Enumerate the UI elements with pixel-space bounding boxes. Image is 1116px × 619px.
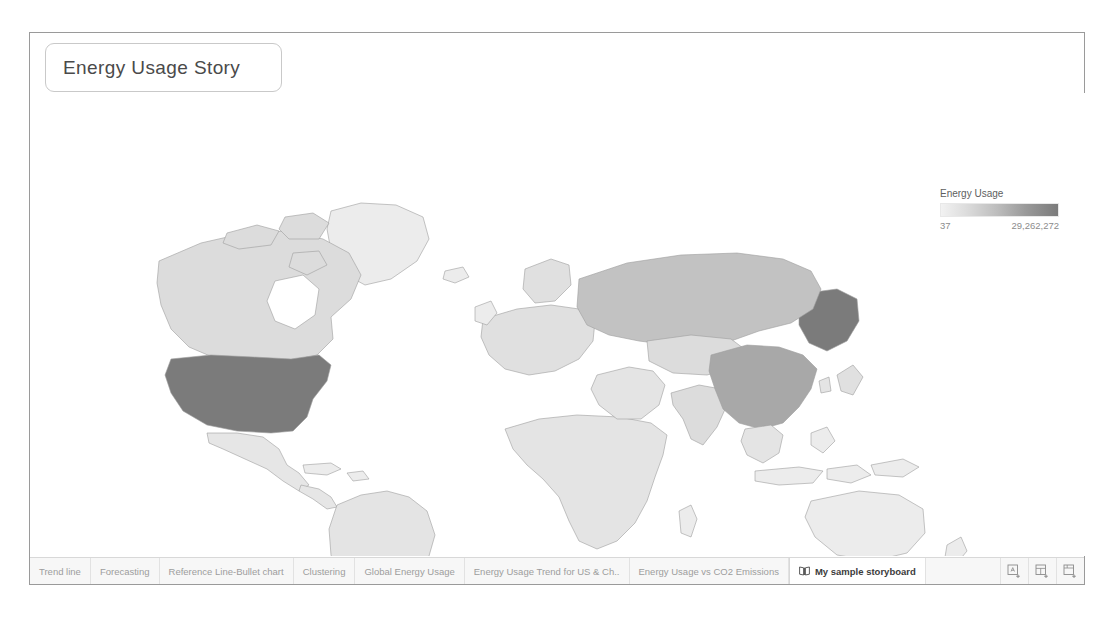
country-europe	[481, 305, 595, 375]
world-choropleth-map	[31, 93, 1085, 556]
application-window: Energy Usage Story Energy usage across t…	[29, 32, 1085, 585]
map-view[interactable]: © OpenStreetMap contributors	[31, 93, 1085, 556]
new-dashboard-button[interactable]	[1028, 558, 1056, 584]
new-worksheet-button[interactable]	[1000, 558, 1028, 584]
country-south-america	[329, 491, 435, 556]
country-united-states	[165, 355, 331, 433]
country-australia	[805, 491, 925, 556]
island-madagascar	[679, 505, 697, 537]
sheet-tab-forecasting-label: Forecasting	[100, 566, 150, 577]
legend-min-value: 37	[940, 220, 951, 231]
sheet-tab-bar: Trend line Forecasting Reference Line-Bu…	[30, 557, 1084, 584]
island-indonesia-1	[755, 467, 823, 485]
story-book-icon	[799, 566, 810, 576]
island-hispaniola	[347, 471, 369, 481]
story-title-card[interactable]: Energy Usage Story	[45, 43, 282, 92]
country-canada-islands-2	[279, 213, 329, 239]
sheet-tab-my-sample-storyboard[interactable]: My sample storyboard	[789, 558, 926, 584]
island-iceland	[443, 267, 469, 283]
country-japan	[837, 365, 863, 395]
sheet-tab-reference-line-label: Reference Line-Bullet chart	[169, 566, 284, 577]
new-story-icon	[1063, 564, 1078, 579]
country-korea	[819, 377, 831, 393]
island-cuba	[303, 463, 341, 475]
country-middle-east	[591, 367, 665, 419]
sheet-tab-global-energy-usage-label: Global Energy Usage	[364, 566, 454, 577]
sheet-tab-energy-usage-trend-label: Energy Usage Trend for US & Ch..	[474, 566, 620, 577]
sheet-tab-energy-usage-vs-co2-label: Energy Usage vs CO2 Emissions	[639, 566, 779, 577]
sheet-tab-energy-usage-trend[interactable]: Energy Usage Trend for US & Ch..	[465, 558, 630, 584]
country-mexico	[207, 433, 309, 491]
legend-scale: 37 29,262,272	[940, 220, 1059, 231]
sheet-tab-my-sample-storyboard-label: My sample storyboard	[815, 566, 916, 577]
country-southeast-asia	[741, 425, 783, 463]
sheet-tab-energy-usage-vs-co2[interactable]: Energy Usage vs CO2 Emissions	[630, 558, 789, 584]
sheet-tab-global-energy-usage[interactable]: Global Energy Usage	[355, 558, 464, 584]
island-new-guinea	[871, 459, 919, 477]
sheet-tab-trend-line-label: Trend line	[39, 566, 81, 577]
country-africa	[505, 415, 667, 549]
new-story-button[interactable]	[1056, 558, 1084, 584]
country-scandinavia	[523, 259, 571, 303]
sheet-tab-trend-line[interactable]: Trend line	[30, 558, 91, 584]
island-new-zealand	[945, 537, 967, 556]
new-sheet-buttons	[1000, 558, 1084, 584]
island-philippines	[811, 427, 835, 453]
sheet-tab-forecasting[interactable]: Forecasting	[91, 558, 160, 584]
legend-gradient-bar[interactable]	[940, 203, 1059, 217]
country-canada	[157, 231, 361, 361]
new-dashboard-icon	[1035, 564, 1050, 579]
country-china	[709, 345, 817, 429]
new-worksheet-icon	[1007, 564, 1022, 579]
sheet-tab-reference-line-bullet-chart[interactable]: Reference Line-Bullet chart	[160, 558, 294, 584]
legend-max-value: 29,262,272	[1011, 220, 1059, 231]
legend-title: Energy Usage	[940, 188, 1065, 199]
story-title: Energy Usage Story	[46, 57, 240, 79]
country-central-america	[299, 485, 337, 509]
sheet-tab-clustering-label: Clustering	[303, 566, 346, 577]
island-indonesia-2	[827, 465, 871, 483]
country-russia	[577, 253, 821, 345]
energy-usage-legend: Energy Usage 37 29,262,272	[940, 188, 1065, 231]
sheet-tab-clustering[interactable]: Clustering	[294, 558, 356, 584]
